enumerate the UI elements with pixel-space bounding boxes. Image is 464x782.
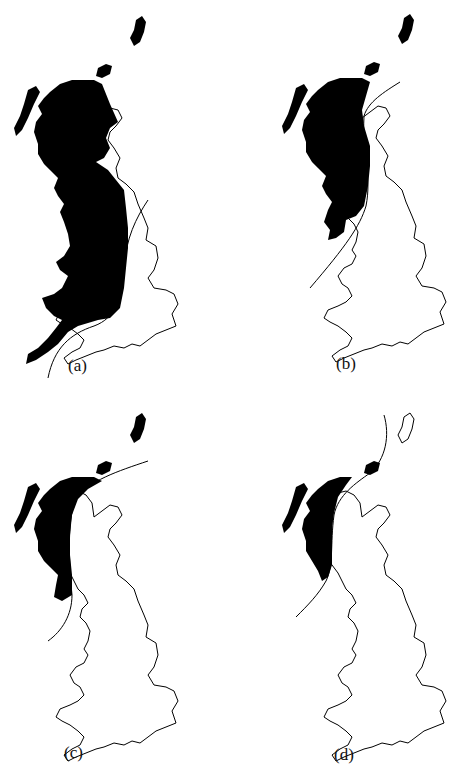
map-panel-c: (c): [0, 391, 232, 782]
gb-map-b: [232, 0, 464, 391]
map-panel-d: (d): [232, 391, 464, 782]
gb-map-d: [232, 391, 464, 782]
map-panel-b: (b): [232, 0, 464, 391]
gb-map-c: [0, 391, 232, 782]
map-panel-a: (a): [0, 0, 232, 391]
panel-label-b: (b): [336, 354, 356, 374]
panel-label-c: (c): [64, 743, 83, 763]
gb-map-a: [0, 0, 232, 391]
panel-label-a: (a): [68, 356, 87, 376]
panel-label-d: (d): [334, 745, 354, 765]
